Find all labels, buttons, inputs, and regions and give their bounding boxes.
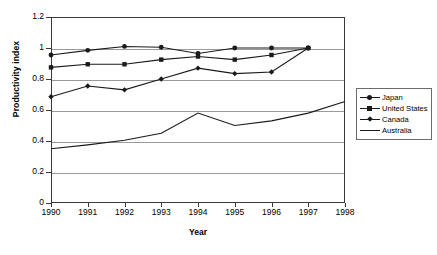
x-axis-tick-label: 1993 [141,207,181,217]
x-axis-tick-label: 1990 [31,207,71,217]
data-point-united-states [122,62,126,66]
data-point-canada [85,83,90,88]
legend-label: Australia [380,126,412,135]
y-axis-tick-label: 1 [0,43,44,52]
x-axis-tick-label: 1994 [178,207,218,217]
series-line-australia [51,101,345,148]
x-axis-tick-label: 1995 [215,207,255,217]
data-point-canada [232,71,237,76]
productivity-index-line-chart: Productivity index 1.210.80.60.40.20 199… [0,0,437,255]
x-axis-tick-label: 1998 [325,207,365,217]
y-axis-tick-label: 0.6 [0,105,44,114]
data-point-canada [48,94,53,99]
x-axis-tick-label: 1997 [288,207,328,217]
data-point-canada [122,87,127,92]
legend-swatch-icon [360,114,380,125]
legend-swatch-icon [360,92,380,103]
data-point-japan [85,48,90,53]
legend-label: Japan [380,93,403,102]
legend-item-australia[interactable]: Australia [357,125,431,136]
x-axis-tick-label: 1992 [105,207,145,217]
data-point-united-states [233,57,237,61]
data-point-japan [49,53,54,58]
y-axis-tick-label: 1.2 [0,12,44,21]
data-point-japan [122,44,127,49]
y-axis-tick-label: 0 [0,198,44,207]
series-layer [51,17,345,203]
data-point-canada [159,76,164,81]
data-point-japan [232,46,237,51]
data-point-japan [269,46,274,51]
x-axis-tick-label: 1991 [68,207,108,217]
legend-item-united-states[interactable]: United States [357,103,431,114]
y-axis-tick-label: 0.8 [0,74,44,83]
y-axis-tick-label: 0.2 [0,167,44,176]
x-axis-tick-label: 1996 [252,207,292,217]
legend-item-canada[interactable]: Canada [357,114,431,125]
legend-swatch-icon [360,103,380,114]
legend-swatch-icon [360,125,380,136]
x-axis-title: Year [51,227,345,237]
data-point-united-states [269,53,273,57]
y-axis-tick-label: 0.4 [0,136,44,145]
data-point-canada [195,65,200,70]
data-point-united-states [159,57,163,61]
data-point-japan [159,45,164,50]
data-point-united-states [196,54,200,58]
legend: JapanUnited StatesCanadaAustralia [356,88,432,140]
data-point-united-states [49,65,53,69]
data-point-united-states [86,62,90,66]
legend-label: Canada [380,115,409,124]
legend-label: United States [380,104,428,113]
legend-item-japan[interactable]: Japan [357,92,431,103]
